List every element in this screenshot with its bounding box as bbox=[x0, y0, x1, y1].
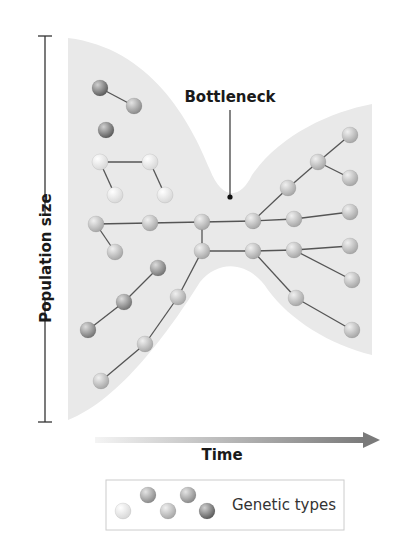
genetic-type-node-medium-light bbox=[194, 243, 210, 259]
genetic-type-node-medium-light bbox=[137, 336, 153, 352]
genetic-type-node-medium-light bbox=[342, 204, 358, 220]
genetic-type-node-medium-light bbox=[93, 373, 109, 389]
genetic-type-node-light bbox=[157, 187, 173, 203]
genetic-type-node-medium-dark bbox=[116, 294, 132, 310]
genetic-type-node-medium-light bbox=[286, 242, 302, 258]
genetic-type-node-medium-light bbox=[107, 244, 123, 260]
genetic-type-node-dark bbox=[98, 122, 114, 138]
genetic-type-node-medium-light bbox=[344, 272, 360, 288]
genetic-type-node-medium-light bbox=[245, 213, 261, 229]
genetic-type-node-light bbox=[142, 154, 158, 170]
legend-swatch-dark bbox=[199, 503, 215, 519]
legend-swatch-light bbox=[115, 503, 131, 519]
legend-label: Genetic types bbox=[232, 496, 336, 514]
genetic-type-node-medium-light bbox=[88, 216, 104, 232]
bottleneck-label: Bottleneck bbox=[184, 88, 276, 106]
genetic-type-node-medium-dark bbox=[80, 322, 96, 338]
legend: Genetic types bbox=[106, 480, 344, 530]
genetic-type-node-medium-light bbox=[342, 238, 358, 254]
legend-swatch-medium bbox=[180, 487, 196, 503]
genetic-type-node-light bbox=[107, 187, 123, 203]
genetic-type-node-dark bbox=[92, 80, 108, 96]
genetic-type-node-medium-light bbox=[310, 154, 326, 170]
genetic-type-node-medium-light bbox=[170, 289, 186, 305]
y-axis-label: Population size bbox=[37, 193, 55, 322]
legend-swatch-medium bbox=[140, 487, 156, 503]
bottleneck-pointer-dot bbox=[227, 194, 232, 199]
genetic-type-node-medium-light bbox=[286, 211, 302, 227]
genetic-type-node-medium-light bbox=[342, 127, 358, 143]
genetic-type-node-medium-light bbox=[280, 180, 296, 196]
genetic-type-node-medium bbox=[126, 98, 142, 114]
genetic-type-node-medium-light bbox=[288, 290, 304, 306]
genetic-type-node-light bbox=[92, 154, 108, 170]
x-axis-label: Time bbox=[201, 446, 242, 464]
genetic-type-node-medium-light bbox=[142, 215, 158, 231]
time-arrow-shaft bbox=[95, 437, 365, 443]
genetic-type-node-medium-dark bbox=[150, 260, 166, 276]
legend-swatch-medium-light bbox=[160, 503, 176, 519]
genetic-type-node-medium-light bbox=[194, 214, 210, 230]
population-bottleneck-diagram: Population size Bottleneck Time Genetic … bbox=[0, 0, 404, 551]
time-arrow-head bbox=[363, 432, 380, 448]
genetic-type-node-medium-light bbox=[342, 170, 358, 186]
genetic-type-node-medium-light bbox=[344, 322, 360, 338]
genetic-type-node-medium-light bbox=[245, 243, 261, 259]
